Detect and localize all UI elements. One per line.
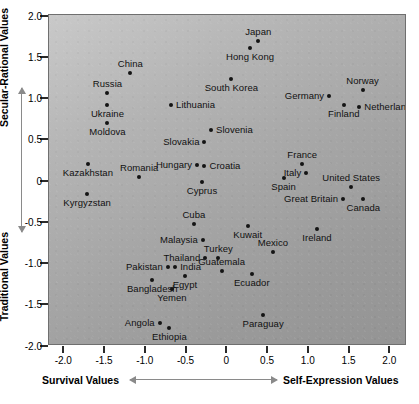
data-point-label: Romania <box>120 162 158 172</box>
y-axis-tick-label: -0.5 <box>10 216 42 227</box>
data-point[interactable] <box>361 197 365 201</box>
data-point-label: Kazakhstan <box>63 168 113 178</box>
data-point-label: Hungary <box>156 160 192 170</box>
data-point[interactable] <box>349 185 353 189</box>
y-axis-tick-label: 0.5 <box>10 134 42 145</box>
data-point[interactable] <box>304 171 308 175</box>
data-point-label: Cyprus <box>187 186 217 196</box>
data-point-label: Kyrgyzstan <box>63 198 111 208</box>
data-point-label: Slovenia <box>216 126 253 136</box>
data-point-label: Germany <box>285 91 324 101</box>
data-point-label: Croatia <box>209 161 240 171</box>
y-axis-tick-label: -2.0 <box>10 340 42 351</box>
data-point[interactable] <box>220 269 224 273</box>
data-point-label: Ethiopia <box>152 332 187 342</box>
data-point-label: Paraguay <box>243 319 284 329</box>
data-point[interactable] <box>202 140 206 144</box>
data-point[interactable] <box>361 88 365 92</box>
data-point-label: Slovakia <box>163 137 199 147</box>
data-point[interactable] <box>166 265 170 269</box>
data-point-label: Japan <box>245 27 271 37</box>
data-point-label: Russia <box>93 79 122 89</box>
data-point[interactable] <box>170 287 174 291</box>
data-point[interactable] <box>261 313 265 317</box>
data-point-label: Lithuania <box>176 100 215 110</box>
data-point[interactable] <box>246 224 250 228</box>
x-axis-tick <box>307 346 309 353</box>
data-point[interactable] <box>173 265 177 269</box>
x-axis-tick-label: 0.5 <box>260 355 274 366</box>
y-axis-tick-label: 1.0 <box>10 93 42 104</box>
data-point[interactable] <box>341 197 345 201</box>
x-axis-tick <box>144 346 146 353</box>
data-point[interactable] <box>169 103 173 107</box>
data-point[interactable] <box>248 46 252 50</box>
x-axis-tick-label: 0 <box>224 355 230 366</box>
data-point[interactable] <box>271 250 275 254</box>
data-point[interactable] <box>167 326 171 330</box>
data-point[interactable] <box>85 192 89 196</box>
data-point-label: Italy <box>284 169 302 179</box>
data-point[interactable] <box>128 71 132 75</box>
x-axis-tick <box>225 346 227 353</box>
data-point[interactable] <box>150 278 154 282</box>
data-point[interactable] <box>342 103 346 107</box>
data-point[interactable] <box>195 163 199 167</box>
data-point-label: Angola <box>125 319 155 329</box>
data-point-label: United States <box>322 173 380 183</box>
data-point[interactable] <box>300 162 304 166</box>
data-point[interactable] <box>209 128 213 132</box>
data-point-label: China <box>118 59 143 69</box>
data-point-label: Norway <box>346 75 379 85</box>
data-point-label: Yemen <box>157 293 186 303</box>
x-axis-tick <box>103 346 105 353</box>
data-point-label: France <box>287 150 317 160</box>
data-point-label: Egypt <box>173 280 198 290</box>
y-axis-tick-label: 0 <box>10 175 42 186</box>
data-point-label: Malaysia <box>160 235 198 245</box>
y-axis-tick-label: 1.5 <box>10 51 42 62</box>
data-point[interactable] <box>86 162 90 166</box>
data-point[interactable] <box>202 164 206 168</box>
data-point[interactable] <box>105 103 109 107</box>
x-axis-tick-label: 1.0 <box>301 355 315 366</box>
data-point[interactable] <box>250 272 254 276</box>
data-point-label: Finland <box>328 109 360 119</box>
x-axis-tick-label: 1.5 <box>342 355 356 366</box>
x-axis-tick <box>62 346 64 353</box>
x-axis-tick <box>388 346 390 353</box>
y-axis-tick-label: -1.0 <box>10 258 42 269</box>
data-point[interactable] <box>282 176 286 180</box>
data-point[interactable] <box>105 121 109 125</box>
data-point[interactable] <box>105 91 109 95</box>
y-axis-tick-label: -1.5 <box>10 299 42 310</box>
data-point[interactable] <box>256 39 260 43</box>
data-point[interactable] <box>183 274 187 278</box>
data-point[interactable] <box>137 175 141 179</box>
x-axis-tick <box>185 346 187 353</box>
data-point-label: Turkey <box>204 244 233 254</box>
x-axis-tick-label: -1.5 <box>95 355 112 366</box>
cultural-map-figure: JapanHong KongChinaNorwayRussiaSouth Kor… <box>0 0 419 404</box>
x-axis-tick-label: -1.0 <box>136 355 153 366</box>
data-point-label: Cuba <box>182 210 205 220</box>
x-axis-tick-label: 2.0 <box>382 355 396 366</box>
x-axis-tick-label: -2.0 <box>55 355 72 366</box>
data-point[interactable] <box>327 94 331 98</box>
data-point[interactable] <box>201 238 205 242</box>
data-point[interactable] <box>200 180 204 184</box>
data-point-label: Ireland <box>302 233 331 243</box>
data-point-label: Mexico <box>258 238 288 248</box>
data-point-label: Moldova <box>89 127 125 137</box>
data-point-label: Canada <box>347 203 381 213</box>
scatter-plot-area: JapanHong KongChinaNorwayRussiaSouth Kor… <box>48 14 406 345</box>
data-point-label: Ukraine <box>91 109 124 119</box>
data-point-label: Guatemala <box>198 256 245 266</box>
data-point[interactable] <box>192 222 196 226</box>
data-point[interactable] <box>315 227 319 231</box>
data-point-label: Netherlands <box>364 103 406 113</box>
data-point[interactable] <box>158 321 162 325</box>
data-point[interactable] <box>229 77 233 81</box>
data-point-label: South Korea <box>205 83 258 93</box>
data-point-label: Ecuador <box>234 278 270 288</box>
